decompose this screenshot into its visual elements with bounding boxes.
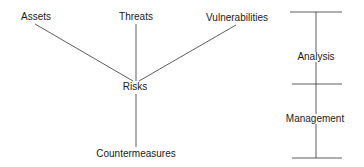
node-assets: Assets: [20, 12, 52, 22]
edge-vulnerabilities-risks: [139, 25, 236, 81]
edge-assets-risks: [35, 24, 133, 81]
diagram-lines: [0, 0, 364, 167]
phase-management: Management: [285, 114, 345, 124]
phase-analysis: Analysis: [296, 52, 335, 62]
node-risks: Risks: [122, 82, 148, 92]
node-vulnerabilities: Vulnerabilities: [205, 13, 269, 23]
node-threats: Threats: [118, 12, 154, 22]
node-countermeasures: Countermeasures: [95, 149, 176, 159]
